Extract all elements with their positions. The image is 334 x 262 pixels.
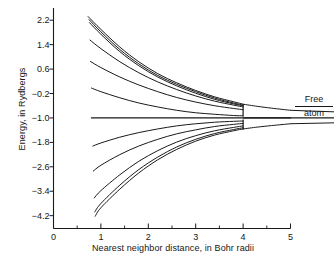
y-tick-label: 1.4 [16, 40, 50, 50]
free-atom-label-bottom: atom [294, 107, 334, 119]
x-axis-label: Nearest neighbor distance, in Bohr radii [53, 243, 293, 253]
curve-lower-band-4 [95, 128, 243, 212]
curve-lower-band-5 [95, 129, 243, 216]
y-tick-label: 0.6 [16, 64, 50, 74]
free-atom-lower-extension [291, 123, 334, 124]
free-atom-label-top: Free [294, 94, 334, 106]
x-tick-label: 2 [136, 232, 160, 242]
x-tick-label: 0 [42, 232, 66, 242]
y-tick-label: −2.6 [16, 162, 50, 172]
x-tick-label: 3 [184, 232, 208, 242]
x-tick-label: 1 [89, 232, 113, 242]
band-structure-figure: Energy, in Rydbergs Nearest neighbor dis… [0, 0, 334, 262]
curve-upper-band-3 [90, 23, 244, 106]
curve-upper-band-1 [88, 17, 243, 105]
curve-lower-band-2 [93, 123, 243, 171]
curve-tail-upper [243, 104, 290, 110]
y-tick-label: −4.2 [16, 211, 50, 221]
y-tick-label: −3.4 [16, 186, 50, 196]
free-atom-annotation: Free atom [294, 94, 334, 119]
curve-lower-band-3 [94, 126, 243, 198]
curve-upper-band-2 [89, 20, 243, 106]
x-tick-label: 4 [231, 232, 255, 242]
y-tick-label: 2.2 [16, 15, 50, 25]
curve-tail-lower [243, 124, 290, 129]
plot-canvas [0, 0, 334, 262]
y-tick-label: −1.8 [16, 137, 50, 147]
y-tick-label: −1.0 [16, 113, 50, 123]
x-tick-label: 5 [279, 232, 303, 242]
y-tick-label: −0.2 [16, 89, 50, 99]
